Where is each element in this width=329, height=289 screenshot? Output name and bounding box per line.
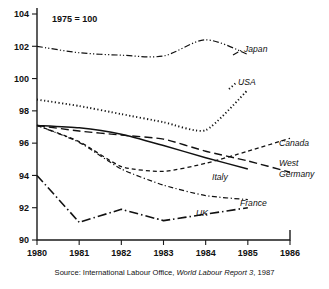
y-tick-label: 100 [14,74,29,84]
y-tick-102: 102 [14,42,37,52]
y-tick-label: 94 [19,171,29,181]
x-tick-1981: 1981 [69,240,89,258]
series-label-layer: JapanUSACanadaWestGermanyItalyFranceUK [196,44,315,218]
x-tick-label: 1983 [153,248,173,258]
source-publication: World Labour Report 3 [176,268,253,277]
y-tick-94: 94 [19,171,37,181]
series-line-west-germany [37,125,290,172]
x-tick-1986: 1986 [280,240,300,258]
x-tick-label: 1982 [111,248,131,258]
series-line-france [37,125,248,199]
x-tick-1984: 1984 [196,240,216,258]
series-layer [37,40,290,222]
x-tick-label: 1981 [69,248,89,258]
series-line-usa [37,90,248,131]
series-line-japan [37,40,248,57]
y-tick-label: 92 [19,203,29,213]
series-label-france: France [240,198,267,208]
series-line-uk [37,175,248,222]
chart-container: 9092949698100102104198019811982198319841… [0,0,329,289]
source-suffix: , 1987 [253,268,274,277]
y-tick-96: 96 [19,138,37,148]
y-tick-92: 92 [19,203,37,213]
y-tick-104: 104 [14,9,37,19]
source-note: Source: International Labour Office, Wor… [0,268,329,277]
y-tick-label: 90 [19,235,29,245]
y-tick-label: 98 [19,106,29,116]
series-leader-usa [229,83,236,89]
x-tick-1983: 1983 [153,240,173,258]
y-tick-label: 102 [14,42,29,52]
x-tick-label: 1980 [27,248,47,258]
series-label-canada: Canada [279,138,309,148]
x-tick-label: 1986 [280,248,300,258]
series-label-japan: Japan [243,44,268,54]
x-tick-label: 1984 [196,248,216,258]
y-tick-100: 100 [14,74,37,84]
index-base-annotation: 1975 = 100 [52,14,97,24]
series-label-uk: UK [196,208,209,218]
series-label-west-germany: Germany [279,169,315,179]
series-leader-japan [233,50,242,55]
x-tick-1982: 1982 [111,240,131,258]
y-tick-90: 90 [19,235,37,245]
y-tick-98: 98 [19,106,37,116]
series-label-west-germany: West [279,158,299,168]
x-tick-1980: 1980 [27,240,47,258]
series-label-italy: Italy [212,172,228,182]
source-prefix: Source: International Labour Office, [55,268,175,277]
series-line-canada [37,125,290,171]
x-tick-label: 1985 [238,248,258,258]
y-tick-label: 104 [14,9,29,19]
series-label-usa: USA [238,77,256,87]
annotation-layer: 1975 = 100 [52,14,97,24]
y-tick-label: 96 [19,138,29,148]
series-line-italy [37,125,248,169]
line-chart: 9092949698100102104198019811982198319841… [0,0,329,289]
x-tick-1985: 1985 [238,240,258,258]
